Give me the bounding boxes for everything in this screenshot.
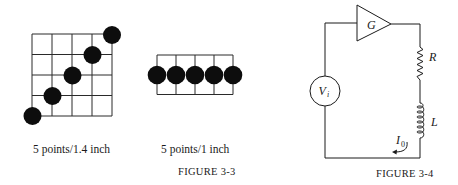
circuit-diagram: G V i R L I 0 FIGURE 3-4: [310, 5, 438, 179]
point: [84, 46, 102, 64]
current-subscript: 0: [401, 140, 405, 149]
amplifier: G: [357, 5, 391, 41]
horizontal-grid-panel: 5 points/1 inch: [148, 55, 243, 156]
inductor-coil-icon: [417, 103, 424, 138]
circuit-wires: [325, 23, 420, 158]
point: [44, 87, 62, 105]
resistor-label: R: [428, 50, 437, 64]
amplifier-label: G: [367, 18, 376, 32]
horizontal-points: [148, 66, 243, 85]
inductor: L: [417, 103, 438, 138]
diagonal-grid-label: 5 points/1.4 inch: [33, 143, 110, 156]
point: [167, 66, 186, 85]
point: [186, 66, 205, 85]
current-indicator: I 0: [392, 133, 407, 155]
current-arrowhead-icon: [392, 150, 397, 155]
resistor: R: [417, 47, 437, 80]
figures-canvas: 5 points/1.4 inch 5 points/1 inch FIGURE…: [0, 0, 458, 185]
horizontal-grid-label: 5 points/1 inch: [161, 143, 230, 156]
diagonal-grid-panel: 5 points/1.4 inch: [24, 26, 122, 156]
point: [205, 66, 224, 85]
point: [24, 107, 42, 125]
inductor-label: L: [430, 115, 438, 129]
point: [148, 66, 167, 85]
figure-3-3-caption: FIGURE 3-3: [178, 166, 236, 177]
point: [103, 26, 121, 44]
voltage-source: V i: [310, 76, 340, 106]
resistor-zigzag-icon: [417, 47, 423, 80]
point: [64, 67, 82, 85]
figure-3-4-caption: FIGURE 3-4: [376, 168, 434, 179]
point: [224, 66, 243, 85]
voltage-source-subscript: i: [327, 90, 329, 99]
